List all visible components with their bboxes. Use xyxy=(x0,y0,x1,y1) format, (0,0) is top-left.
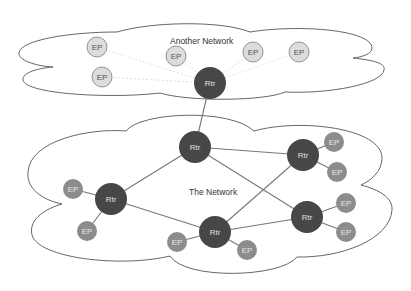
endpoint-node-ep-m5: EP xyxy=(324,132,344,152)
router-label: Rtr xyxy=(302,213,313,222)
router-label: Rtr xyxy=(190,143,201,152)
endpoint-label: EP xyxy=(92,43,103,52)
endpoint-label: EP xyxy=(248,48,259,57)
network-diagram: EPEPEPEPEPEPEPEPEPEPEPEPEPRtrRtrRtrRtrRt… xyxy=(0,0,411,291)
router-label: Rtr xyxy=(298,151,309,160)
router-node-r-right-bottom: Rtr xyxy=(291,201,323,233)
router-node-r-gw: Rtr xyxy=(194,67,226,99)
endpoint-node-ep-o5: EP xyxy=(289,42,309,62)
endpoint-node-ep-o2: EP xyxy=(166,46,186,66)
router-node-r-right-top: Rtr xyxy=(287,139,319,171)
endpoint-node-ep-o1: EP xyxy=(87,37,107,57)
endpoint-label: EP xyxy=(242,246,253,255)
router-node-r-left: Rtr xyxy=(95,183,127,215)
router-label: Rtr xyxy=(210,228,221,237)
endpoint-label: EP xyxy=(172,238,183,247)
endpoint-label: EP xyxy=(294,48,305,57)
endpoint-node-ep-m4: EP xyxy=(237,240,257,260)
cloud-label-the-network: The Network xyxy=(189,187,238,197)
endpoint-node-ep-o3: EP xyxy=(92,67,112,87)
endpoint-node-ep-m1: EP xyxy=(63,179,83,199)
cloud-label-another-network: Another Network xyxy=(170,36,234,46)
endpoint-node-ep-m3: EP xyxy=(167,232,187,252)
endpoint-label: EP xyxy=(341,228,352,237)
endpoint-node-ep-o4: EP xyxy=(243,42,263,62)
router-label: Rtr xyxy=(205,79,216,88)
endpoint-label: EP xyxy=(97,73,108,82)
endpoint-label: EP xyxy=(341,199,352,208)
endpoint-label: EP xyxy=(171,52,182,61)
router-node-r-top: Rtr xyxy=(179,131,211,163)
endpoint-node-ep-m6: EP xyxy=(327,162,347,182)
router-label: Rtr xyxy=(106,195,117,204)
router-node-r-bottom: Rtr xyxy=(199,216,231,248)
endpoint-label: EP xyxy=(82,227,93,236)
endpoint-label: EP xyxy=(68,185,79,194)
endpoint-label: EP xyxy=(332,168,343,177)
endpoint-node-ep-m2: EP xyxy=(77,221,97,241)
endpoint-node-ep-m7: EP xyxy=(336,193,356,213)
endpoint-node-ep-m8: EP xyxy=(336,222,356,242)
endpoint-label: EP xyxy=(329,138,340,147)
